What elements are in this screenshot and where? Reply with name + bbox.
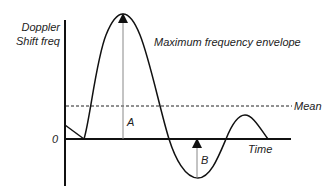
y-axis-label-line2: Shift freq: [14, 35, 60, 48]
time-axis-label: Time: [248, 143, 272, 156]
mean-label: Mean: [294, 100, 322, 113]
marker-a-label: A: [127, 116, 134, 129]
marker-b-label: B: [201, 154, 208, 167]
y-axis-label-line1: Doppler: [20, 21, 60, 34]
envelope-label: Maximum frequency envelope: [154, 36, 301, 49]
initial-segment: [65, 125, 84, 139]
zero-label: 0: [52, 133, 58, 146]
